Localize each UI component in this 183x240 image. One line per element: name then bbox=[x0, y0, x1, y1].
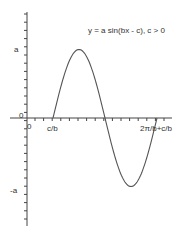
equation-label: y = a sin(bx - c), c > 0 bbox=[88, 27, 165, 35]
y-label-zero: 0 bbox=[19, 112, 23, 120]
y-axis bbox=[24, 12, 27, 226]
x-label-period-end: 2π/b+c/b bbox=[140, 125, 172, 133]
y-label-neg-a: -a bbox=[10, 187, 17, 195]
x-label-zero: 0 bbox=[27, 123, 31, 131]
x-label-c-over-b: c/b bbox=[47, 125, 58, 133]
x-axis bbox=[10, 118, 172, 121]
sine-chart bbox=[0, 0, 183, 240]
y-label-a: a bbox=[14, 46, 18, 54]
